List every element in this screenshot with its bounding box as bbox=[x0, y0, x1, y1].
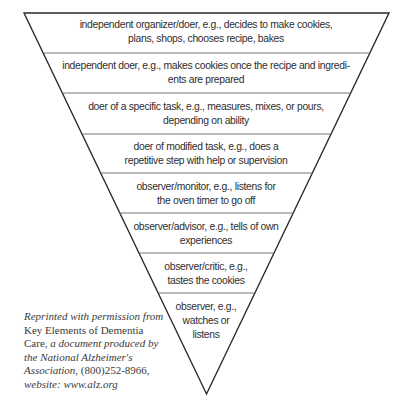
level-2-line-1: independent doer, e.g., makes cookies on… bbox=[62, 58, 350, 72]
level-8-line-1: observer, e.g., bbox=[161, 299, 251, 313]
credit-line-3: Care, a document produced by bbox=[24, 337, 164, 351]
level-4-text: doer of modified task, e.g., does a repe… bbox=[98, 139, 314, 167]
credit-reprinted-text: Reprinted with permission from bbox=[24, 310, 163, 322]
credit-website: website: www.alz.org bbox=[24, 378, 118, 390]
level-6-text: observer/advisor, e.g., tells of own exp… bbox=[125, 219, 287, 247]
level-3-text: doer of a specific task, e.g., measures,… bbox=[80, 99, 332, 127]
level-1-line-2: plans, shops, chooses recipe, bakes bbox=[71, 31, 341, 45]
level-4-line-2: repetitive step with help or supervision bbox=[98, 153, 314, 167]
reprint-credit: Reprinted with permission from Key Eleme… bbox=[24, 310, 164, 392]
credit-care-text: Care, bbox=[24, 337, 48, 349]
credit-phone-number: (800)252-8966, bbox=[78, 364, 150, 376]
level-1-line-1: independent organizer/doer, e.g., decide… bbox=[71, 17, 341, 31]
level-2-text: independent doer, e.g., makes cookies on… bbox=[62, 58, 350, 86]
level-3-line-2: depending on ability bbox=[80, 113, 332, 127]
credit-line-6: website: www.alz.org bbox=[24, 378, 164, 392]
level-7-line-2: tastes the cookies bbox=[143, 273, 269, 287]
level-3-line-1: doer of a specific task, e.g., measures,… bbox=[80, 99, 332, 113]
level-6-line-2: experiences bbox=[125, 233, 287, 247]
level-7-line-1: observer/critic, e.g., bbox=[143, 259, 269, 273]
band-separators bbox=[44, 53, 369, 293]
level-5-text: observer/monitor, e.g., listens for the … bbox=[116, 179, 296, 207]
credit-line-5: Association, (800)252-8966, bbox=[24, 364, 164, 378]
level-8-line-2: watches or bbox=[161, 313, 251, 327]
credit-association-name: the National Alzheimer's bbox=[24, 351, 132, 363]
level-5-line-1: observer/monitor, e.g., listens for bbox=[116, 179, 296, 193]
level-5-line-2: the oven timer to go off bbox=[116, 193, 296, 207]
level-1-text: independent organizer/doer, e.g., decide… bbox=[71, 17, 341, 45]
level-2-line-2: ents are prepared bbox=[62, 72, 350, 86]
level-7-text: observer/critic, e.g., tastes the cookie… bbox=[143, 259, 269, 287]
level-8-text: observer, e.g., watches or listens bbox=[161, 299, 251, 341]
credit-line-4: the National Alzheimer's bbox=[24, 351, 164, 365]
credit-line-1: Reprinted with permission from bbox=[24, 310, 164, 324]
credit-association-text: Association, bbox=[24, 364, 78, 376]
level-8-line-3: listens bbox=[161, 327, 251, 341]
credit-line-2: Key Elements of Dementia bbox=[24, 324, 164, 338]
credit-document-text: a document produced by bbox=[48, 337, 159, 349]
level-6-line-1: observer/advisor, e.g., tells of own bbox=[125, 219, 287, 233]
level-4-line-1: doer of modified task, e.g., does a bbox=[98, 139, 314, 153]
